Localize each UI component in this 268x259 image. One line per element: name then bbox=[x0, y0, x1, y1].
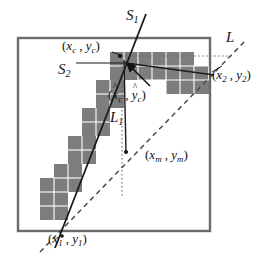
label-center-estimated-coords: (^xc , ^yc) bbox=[108, 88, 146, 104]
label-S2: S2 bbox=[58, 62, 71, 79]
label-L1: L1 bbox=[110, 110, 123, 127]
figure-container: S1 S2 L L1 (xc , yc) (^xc , ^yc) (x2 , y… bbox=[0, 0, 268, 259]
point-m-marker bbox=[124, 150, 128, 154]
point-corner-marker bbox=[118, 54, 122, 58]
label-L: L bbox=[226, 30, 234, 45]
pixel-block bbox=[166, 80, 210, 94]
label-point1-coords: (x1 , y1) bbox=[48, 232, 87, 248]
label-point2-coords: (x2 , y2) bbox=[212, 68, 251, 84]
label-center-true-coords: (xc , yc) bbox=[62, 39, 100, 55]
label-point-m-coords: (xm , ym) bbox=[145, 148, 188, 164]
label-S1: S1 bbox=[126, 8, 139, 25]
